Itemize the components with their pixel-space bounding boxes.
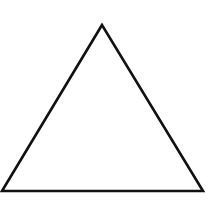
triangle-shape: [2, 25, 203, 191]
triangle-figure: [0, 0, 211, 201]
diagram-canvas: [0, 0, 211, 201]
